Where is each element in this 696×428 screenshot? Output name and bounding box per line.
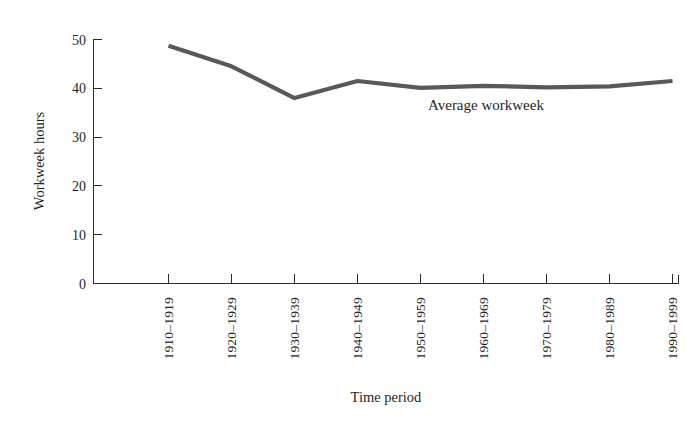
chart-background <box>0 0 696 428</box>
x-tick-label: 1940–1949 <box>350 297 365 360</box>
series-annotation-label: Average workweek <box>428 97 544 113</box>
y-tick-label: 0 <box>79 277 86 292</box>
chart-figure: 50 40 30 20 10 0 1910–1919 1920–1929 193… <box>0 0 696 428</box>
y-tick-label: 50 <box>72 33 86 48</box>
x-tick-label: 1990–1999 <box>665 297 680 360</box>
x-tick-label: 1910–1919 <box>161 297 176 360</box>
y-axis-title: Workweek hours <box>31 111 47 210</box>
x-axis-title: Time period <box>351 389 423 405</box>
x-tick-label: 1960–1969 <box>476 297 491 360</box>
y-tick-label: 40 <box>72 81 86 96</box>
x-tick-label: 1950–1959 <box>413 297 428 360</box>
y-tick-label: 30 <box>72 130 86 145</box>
x-tick-label: 1920–1929 <box>224 297 239 360</box>
x-axis-tick-labels: 1910–1919 1920–1929 1930–1939 1940–1949 … <box>161 297 680 360</box>
y-tick-label: 10 <box>72 228 86 243</box>
x-tick-label: 1970–1979 <box>539 297 554 360</box>
y-tick-label: 20 <box>72 179 86 194</box>
x-tick-label: 1980–1989 <box>602 297 617 360</box>
line-chart: 50 40 30 20 10 0 1910–1919 1920–1929 193… <box>0 0 696 428</box>
x-tick-label: 1930–1939 <box>287 297 302 360</box>
